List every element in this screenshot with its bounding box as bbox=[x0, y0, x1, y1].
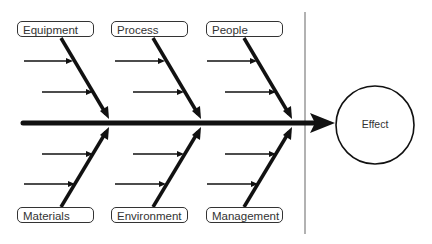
bone-environment bbox=[115, 127, 201, 207]
category-equipment: Equipment bbox=[17, 21, 94, 37]
category-process: Process bbox=[111, 21, 188, 37]
category-management: Management bbox=[206, 207, 283, 223]
effect-label: Effect bbox=[354, 118, 396, 130]
category-people: People bbox=[206, 21, 283, 37]
bone-materials bbox=[24, 127, 109, 207]
bone-management bbox=[207, 127, 292, 207]
bone-process bbox=[115, 38, 201, 119]
category-materials: Materials bbox=[17, 207, 94, 223]
category-environment: Environment bbox=[111, 207, 188, 223]
bone-equipment bbox=[24, 38, 109, 119]
bone-people bbox=[207, 38, 292, 119]
